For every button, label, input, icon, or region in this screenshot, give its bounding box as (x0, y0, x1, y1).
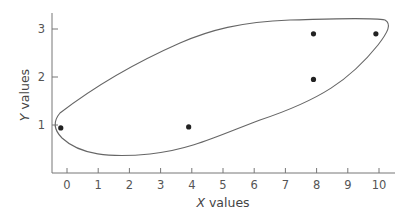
data-point (58, 125, 63, 130)
scatter-chart: 012345678910 123 X values Y values (0, 0, 416, 221)
x-tick-label: 2 (126, 178, 133, 192)
x-tick-label: 1 (95, 178, 102, 192)
data-point (373, 31, 378, 36)
y-axis-ticks: 123 (38, 22, 58, 132)
data-point (311, 31, 316, 36)
enclosing-loop (55, 18, 389, 155)
axes (52, 13, 395, 173)
x-tick-label: 0 (63, 178, 70, 192)
x-tick-label: 4 (188, 178, 195, 192)
data-point (186, 124, 191, 129)
y-tick-label: 1 (38, 118, 45, 132)
x-axis-label: X values (195, 195, 249, 210)
x-axis-ticks: 012345678910 (63, 168, 386, 192)
y-tick-label: 2 (38, 70, 45, 84)
data-point (311, 77, 316, 82)
y-tick-label: 3 (38, 22, 45, 36)
x-tick-label: 7 (282, 178, 289, 192)
x-tick-label: 10 (372, 178, 387, 192)
x-tick-label: 3 (157, 178, 164, 192)
x-tick-label: 8 (313, 178, 320, 192)
y-axis-label: Y values (17, 69, 32, 121)
x-tick-label: 5 (219, 178, 226, 192)
x-tick-label: 9 (344, 178, 351, 192)
x-tick-label: 6 (251, 178, 258, 192)
